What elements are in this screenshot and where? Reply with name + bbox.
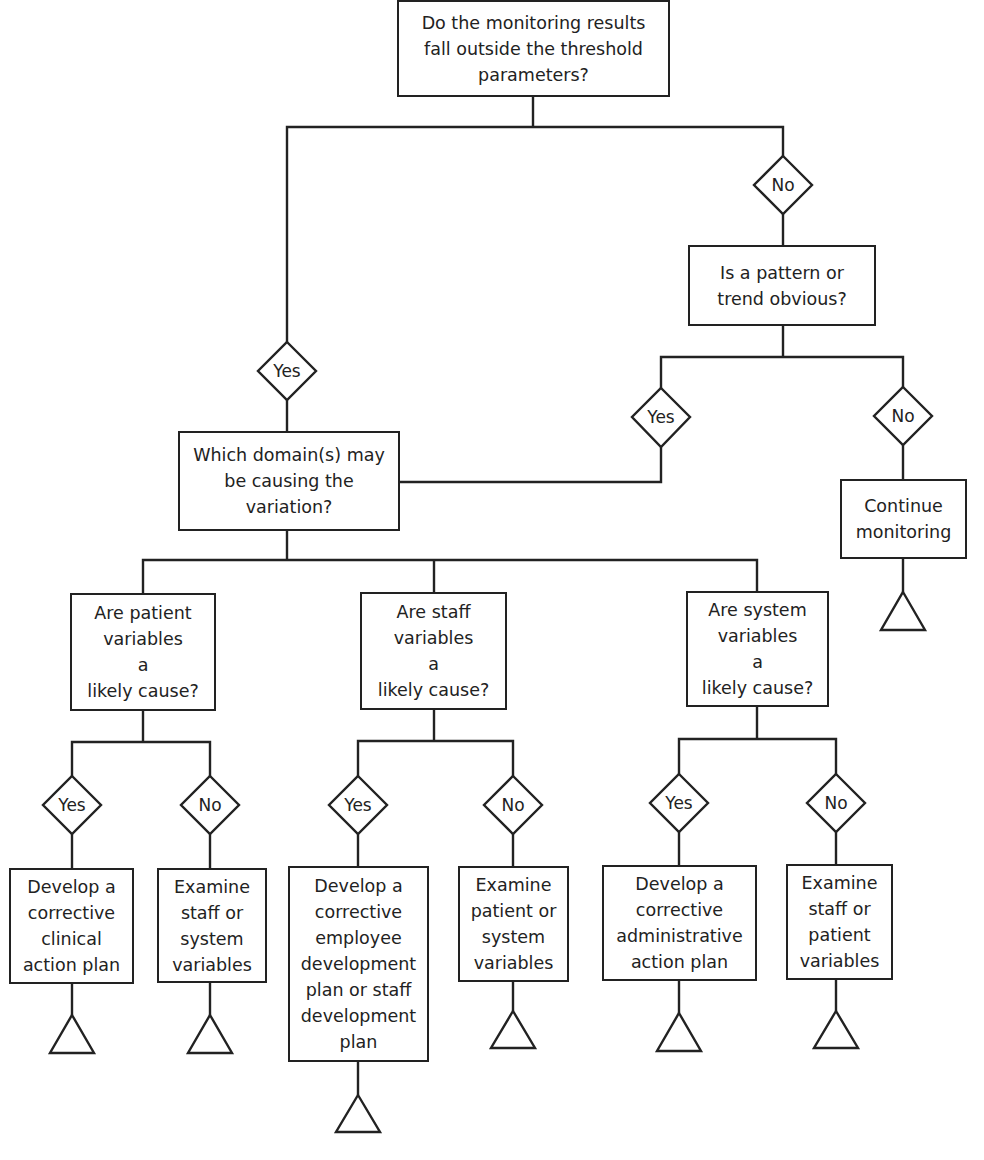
text-line: Is a pattern or: [717, 260, 846, 286]
decision-label-patient-no: No: [180, 775, 240, 835]
decision-label-patient-yes: Yes: [42, 775, 102, 835]
text-line: corrective: [616, 897, 742, 923]
text-line: fall outside the threshold: [422, 36, 646, 62]
decision-label-root-no: No: [753, 155, 813, 215]
system-question-box: Are system variables a likely cause?: [686, 591, 829, 707]
text-line: variables: [378, 625, 489, 651]
decision-label-system-no: No: [806, 773, 866, 833]
text-line: Do the monitoring results: [422, 10, 646, 36]
decision-label-system-yes: Yes: [649, 773, 709, 833]
administrative-action-plan-box: Develop a corrective administrative acti…: [602, 865, 757, 981]
text-line: Examine: [172, 874, 252, 900]
decision-label-root-yes: Yes: [257, 341, 317, 401]
text-line: Continue: [856, 493, 952, 519]
staff-question-box: Are staff variables a likely cause?: [360, 592, 507, 710]
employee-development-plan-box: Develop a corrective employee developmen…: [288, 866, 429, 1062]
decision-label-staff-yes: Yes: [328, 775, 388, 835]
text-line: a: [87, 652, 198, 678]
examine-staff-system-box: Examine staff or system variables: [157, 868, 267, 983]
text-line: system: [172, 926, 252, 952]
text-line: variables: [800, 948, 880, 974]
text-line: Examine: [471, 872, 557, 898]
text-line: variables: [172, 952, 252, 978]
text-line: monitoring: [856, 519, 952, 545]
triangle-icon: [657, 1013, 701, 1051]
text-line: patient: [800, 922, 880, 948]
examine-patient-system-box: Examine patient or system variables: [458, 866, 569, 982]
text-line: Are staff: [378, 599, 489, 625]
text-line: Are system: [702, 597, 813, 623]
text-line: Are patient: [87, 600, 198, 626]
clinical-action-plan-box: Develop a corrective clinical action pla…: [9, 868, 134, 984]
root-question-box: Do the monitoring results fall outside t…: [397, 0, 670, 97]
text-line: action plan: [23, 952, 120, 978]
text-line: employee: [301, 925, 416, 951]
text-line: likely cause?: [378, 677, 489, 703]
triangle-icon: [188, 1015, 232, 1053]
text-line: Which domain(s) may: [193, 442, 385, 468]
text-line: development: [301, 1003, 416, 1029]
pattern-question-box: Is a pattern or trend obvious?: [688, 245, 876, 326]
text-line: development: [301, 951, 416, 977]
text-line: system: [471, 924, 557, 950]
text-line: administrative: [616, 923, 742, 949]
domain-question-box: Which domain(s) may be causing the varia…: [178, 431, 400, 531]
text-line: staff or: [800, 896, 880, 922]
text-line: corrective: [301, 899, 416, 925]
text-line: trend obvious?: [717, 286, 846, 312]
text-line: plan: [301, 1029, 416, 1055]
text-line: Examine: [800, 870, 880, 896]
patient-question-box: Are patient variables a likely cause?: [70, 593, 216, 711]
text-line: clinical: [23, 926, 120, 952]
text-line: a: [702, 649, 813, 675]
triangle-icon: [50, 1015, 94, 1053]
decision-label-staff-no: No: [483, 775, 543, 835]
text-line: likely cause?: [702, 675, 813, 701]
text-line: action plan: [616, 949, 742, 975]
text-line: be causing the: [193, 468, 385, 494]
text-line: Develop a: [616, 871, 742, 897]
continue-monitoring-box: Continue monitoring: [840, 479, 967, 559]
decision-label-pattern-yes: Yes: [631, 387, 691, 447]
text-line: variables: [702, 623, 813, 649]
text-line: likely cause?: [87, 678, 198, 704]
text-line: parameters?: [422, 62, 646, 88]
text-line: staff or: [172, 900, 252, 926]
examine-staff-patient-box: Examine staff or patient variables: [786, 864, 893, 980]
text-line: variation?: [193, 494, 385, 520]
text-line: variables: [471, 950, 557, 976]
decision-label-pattern-no: No: [873, 386, 933, 446]
text-line: variables: [87, 626, 198, 652]
text-line: a: [378, 651, 489, 677]
connector-lines: [0, 0, 984, 1160]
text-line: Develop a: [301, 873, 416, 899]
text-line: Develop a: [23, 874, 120, 900]
triangle-icon: [491, 1011, 535, 1048]
triangle-icon: [336, 1095, 380, 1132]
triangle-icon: [881, 592, 925, 630]
text-line: plan or staff: [301, 977, 416, 1003]
text-line: patient or: [471, 898, 557, 924]
triangle-icon: [814, 1011, 858, 1048]
text-line: corrective: [23, 900, 120, 926]
